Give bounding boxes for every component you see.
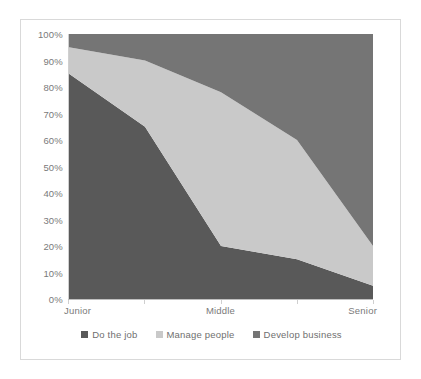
plot-area <box>69 34 373 299</box>
x-axis: JuniorMiddleSenior <box>21 305 402 321</box>
legend-item[interactable]: Do the job <box>81 329 137 340</box>
legend-swatch-icon <box>156 331 163 338</box>
y-axis-tick-label: 70% <box>43 108 63 119</box>
y-axis-tick-label: 100% <box>38 29 63 40</box>
y-axis-tick-label: 0% <box>49 294 63 305</box>
y-axis-tick-label: 20% <box>43 241 63 252</box>
y-axis-tick-label: 80% <box>43 82 63 93</box>
x-axis-tick-mark <box>297 300 298 304</box>
y-axis-tick-label: 30% <box>43 214 63 225</box>
y-axis-tick-label: 60% <box>43 135 63 146</box>
x-axis-tick-label: Junior <box>64 305 91 316</box>
legend-item-label: Develop business <box>264 329 342 340</box>
x-axis-tick-mark <box>221 300 222 304</box>
x-axis-tick-mark <box>373 300 374 304</box>
legend-swatch-icon <box>253 331 260 338</box>
y-axis: 100%90%80%70%60%50%40%30%20%10%0% <box>23 20 67 313</box>
y-axis-tick-label: 50% <box>43 161 63 172</box>
legend-swatch-icon <box>81 331 88 338</box>
x-axis-tick-label: Middle <box>206 305 235 316</box>
x-axis-tick-mark <box>144 300 145 304</box>
y-axis-tick-label: 90% <box>43 55 63 66</box>
chart-legend: Do the jobManage peopleDevelop business <box>21 329 402 340</box>
x-axis-tick-label: Senior <box>348 305 377 316</box>
chart-card: 100%90%80%70%60%50%40%30%20%10%0% Junior… <box>20 19 401 360</box>
y-axis-tick-label: 10% <box>43 267 63 278</box>
x-axis-tick-mark <box>68 300 69 304</box>
legend-item-label: Manage people <box>167 329 235 340</box>
y-axis-tick-label: 40% <box>43 188 63 199</box>
legend-item-label: Do the job <box>92 329 137 340</box>
stacked-area-svg <box>69 34 373 299</box>
legend-item[interactable]: Develop business <box>253 329 342 340</box>
legend-item[interactable]: Manage people <box>156 329 235 340</box>
